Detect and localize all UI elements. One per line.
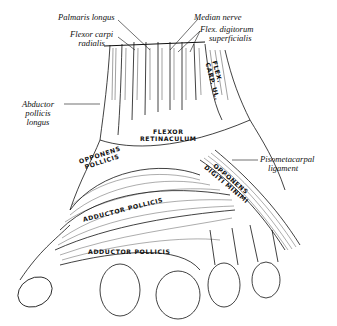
label-flexor-retinaculum-line1: FLEXOR: [140, 128, 197, 135]
leader-lines: [0, 0, 337, 326]
label-adductor-pollicis-lower: ADDUCTOR POLLICIS: [88, 248, 171, 255]
leader-median-nerve: [170, 19, 198, 50]
label-flexor-retinaculum-line2: RETINACULUM: [140, 135, 197, 142]
leader-flex-digitorum-1: [178, 31, 200, 52]
leader-flexor-carpi-radialis: [118, 37, 135, 50]
leader-palmaris-longus: [118, 20, 150, 50]
leader-flex-digitorum-2: [190, 31, 200, 52]
label-flexor-retinaculum: FLEXOR RETINACULUM: [140, 128, 197, 142]
